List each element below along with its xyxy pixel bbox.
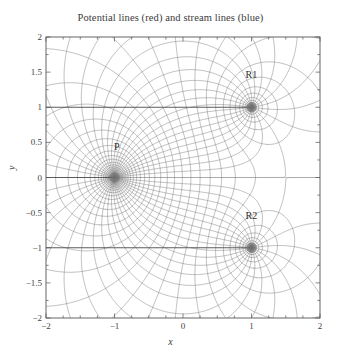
y-tick-label: −0.5 [14, 208, 42, 218]
x-tick-label: 2 [318, 321, 323, 331]
y-tick-label: −2 [14, 313, 42, 323]
y-tick-label: 1 [14, 102, 42, 112]
x-tick-label: 1 [249, 321, 254, 331]
y-axis-label: y [6, 166, 17, 170]
x-tick-label: 0 [181, 321, 186, 331]
point-label-r1: R1 [246, 69, 258, 80]
y-tick-label: 1.5 [14, 67, 42, 77]
y-tick-label: 0 [14, 173, 42, 183]
chart-title: Potential lines (red) and stream lines (… [0, 12, 341, 23]
y-tick-label: 2 [14, 32, 42, 42]
y-tick-label: −1 [14, 243, 42, 253]
x-tick-label: −1 [110, 321, 120, 331]
x-axis-label: x [0, 336, 341, 347]
chart-figure: Potential lines (red) and stream lines (… [0, 0, 341, 358]
y-tick-label: −1.5 [14, 278, 42, 288]
x-tick-label: −2 [41, 321, 51, 331]
point-label-p: P [114, 141, 120, 152]
potential-flow-plot [0, 0, 341, 358]
point-label-r2: R2 [246, 210, 258, 221]
y-tick-label: 0.5 [14, 137, 42, 147]
